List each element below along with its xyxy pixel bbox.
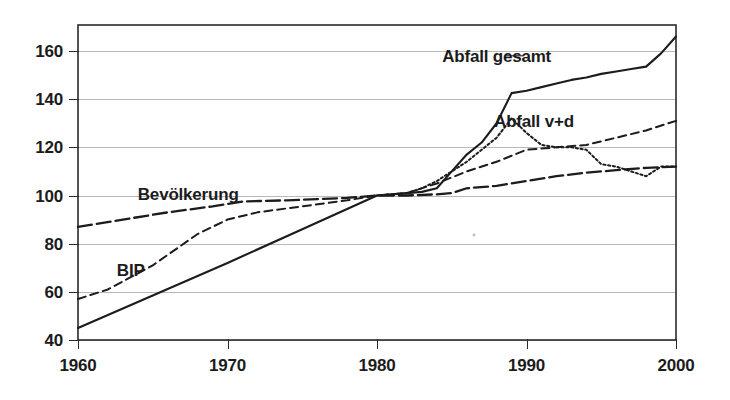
x-tick-label-1960: 1960 — [59, 356, 96, 375]
y-tick-label-140: 140 — [35, 90, 63, 109]
chart-canvas: 406080100120140160 19601970198019902000 … — [0, 0, 730, 400]
x-tick-label-1990: 1990 — [508, 356, 545, 375]
x-tick-label-2000: 2000 — [657, 356, 694, 375]
series-line-abfall-gesamt — [78, 37, 676, 328]
series-labels: Abfall gesamtAbfall v+dBIPBevölkerung — [117, 47, 574, 280]
print-speck — [473, 234, 476, 237]
series-label-bev-lkerung: Bevölkerung — [138, 185, 239, 204]
series-label-abfall-gesamt: Abfall gesamt — [442, 47, 551, 66]
series-label-bip: BIP — [117, 261, 145, 280]
y-tick-label-120: 120 — [35, 138, 63, 157]
y-tick-label-160: 160 — [35, 42, 63, 61]
y-tick-label-100: 100 — [35, 187, 63, 206]
y-tick-label-40: 40 — [44, 331, 63, 350]
y-tick-label-60: 60 — [44, 283, 63, 302]
x-axis-tick-labels: 19601970198019902000 — [59, 356, 694, 375]
y-axis-tick-labels: 406080100120140160 — [35, 42, 63, 350]
y-tick-label-80: 80 — [44, 235, 63, 254]
x-tick-label-1970: 1970 — [209, 356, 246, 375]
x-tick-label-1980: 1980 — [358, 356, 395, 375]
data-series — [78, 37, 676, 328]
series-label-abfall-v-d: Abfall v+d — [494, 112, 574, 131]
index-line-chart: 406080100120140160 19601970198019902000 … — [0, 0, 730, 400]
